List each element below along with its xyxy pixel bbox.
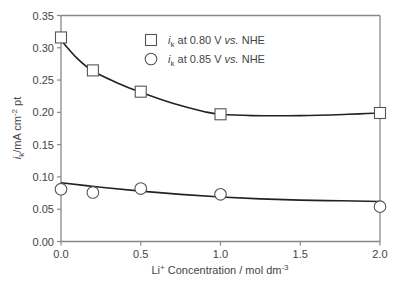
y-axis-title: ik/mA cm-2 pt	[10, 97, 26, 159]
circle-data-point	[55, 183, 67, 195]
y-tick-label: 0.35	[33, 10, 54, 22]
x-tick-label: 0.5	[133, 248, 148, 260]
legend-circle-marker-icon	[145, 53, 157, 65]
y-tick-label: 0.30	[33, 42, 54, 54]
square-data-point	[215, 109, 226, 120]
legend-label: ik at 0.85 V vs. NHE	[168, 53, 265, 68]
x-tick-label: 0.0	[53, 248, 68, 260]
y-tick-label: 0.25	[33, 74, 54, 86]
x-axis-ticks: 0.00.51.01.52.0	[53, 242, 387, 260]
circle-data-point	[215, 189, 227, 201]
y-tick-label: 0.20	[33, 106, 54, 118]
x-tick-label: 2.0	[372, 248, 387, 260]
x-tick-label: 1.5	[293, 248, 308, 260]
y-axis-ticks: 0.000.050.100.150.200.250.300.35	[33, 10, 61, 248]
y-tick-label: 0.10	[33, 171, 54, 183]
y-tick-label: 0.00	[33, 236, 54, 248]
circle-data-point	[135, 183, 147, 195]
y-tick-label: 0.05	[33, 203, 54, 215]
legend: ik at 0.80 V vs. NHEik at 0.85 V vs. NHE	[145, 34, 265, 68]
square-data-point	[135, 86, 146, 97]
legend-square-marker-icon	[146, 35, 157, 46]
x-tick-label: 1.0	[213, 248, 228, 260]
fit-curve-square	[61, 40, 380, 116]
chart: 0.000.050.100.150.200.250.300.35 0.00.51…	[0, 0, 395, 284]
x-axis-title: Li+ Concentration / mol dm-3	[151, 263, 289, 276]
square-data-point	[87, 65, 98, 76]
y-tick-label: 0.15	[33, 139, 54, 151]
axes	[61, 16, 380, 242]
square-data-point	[56, 32, 67, 43]
circle-data-point	[374, 201, 386, 213]
circle-data-point	[87, 187, 99, 199]
legend-label: ik at 0.80 V vs. NHE	[168, 34, 265, 49]
square-data-point	[375, 108, 386, 119]
